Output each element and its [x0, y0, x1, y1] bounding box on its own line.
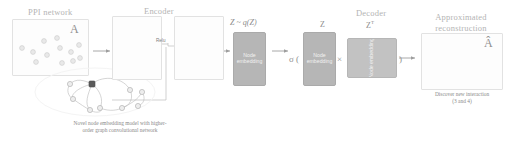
- arrow-latent-to-decoder: [272, 49, 288, 52]
- latent-node-embedding-box: Node embedding: [233, 32, 266, 86]
- sigmoid-open-paren: σ (: [289, 54, 299, 64]
- panel-reconstruction-title: Approximated reconstruction: [426, 12, 496, 34]
- decoder-z-label: Z: [320, 20, 325, 29]
- arrow-input-to-encoder: [93, 49, 110, 52]
- matrix-multiply-symbol: ×: [337, 54, 342, 64]
- panel-decoder-title: Decoder: [356, 8, 386, 18]
- panel-encoder-left: [112, 16, 162, 80]
- zt-superscript: T: [371, 20, 374, 25]
- reconstructed-matrix-label: Â: [484, 36, 493, 51]
- decoder-z-transpose-box-text: Node embedding: [369, 38, 375, 78]
- decoder-z-box: Node embedding: [303, 32, 336, 86]
- ppi-node-group: [20, 36, 83, 66]
- relu-activation-label: Relu: [156, 38, 165, 43]
- discover-interaction-note: Discover new interaction (3 and 4): [424, 91, 500, 106]
- figure-canvas: PPI network A: [0, 0, 513, 149]
- sigmoid-close-paren: ): [399, 54, 402, 64]
- latent-variable-label: Z ~ q(Z): [230, 18, 257, 27]
- gcn-model-caption: Novel node embedding model with higher- …: [50, 120, 190, 135]
- decoder-z-transpose-box: Node embedding: [347, 38, 397, 78]
- decoder-z-transpose-label: ZT: [366, 20, 374, 30]
- latent-node-embedding-box-text: Node embedding: [237, 53, 263, 65]
- decoder-z-box-text: Node embedding: [307, 53, 333, 65]
- panel-encoder-title: Encoder: [144, 6, 174, 16]
- panel-encoder-right: [174, 16, 224, 80]
